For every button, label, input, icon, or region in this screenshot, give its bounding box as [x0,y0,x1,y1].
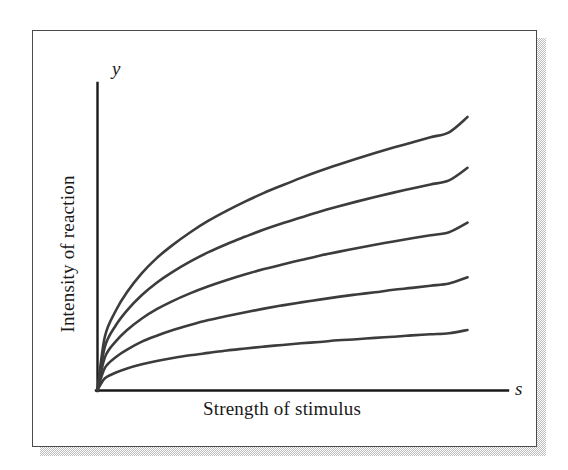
x-axis-title: Strength of stimulus [97,398,467,420]
y-axis-variable-label: y [112,58,120,80]
figure-frame [32,30,537,447]
y-axis-title: Intensity of reaction [57,124,79,384]
x-axis-variable-label: s [515,378,522,400]
